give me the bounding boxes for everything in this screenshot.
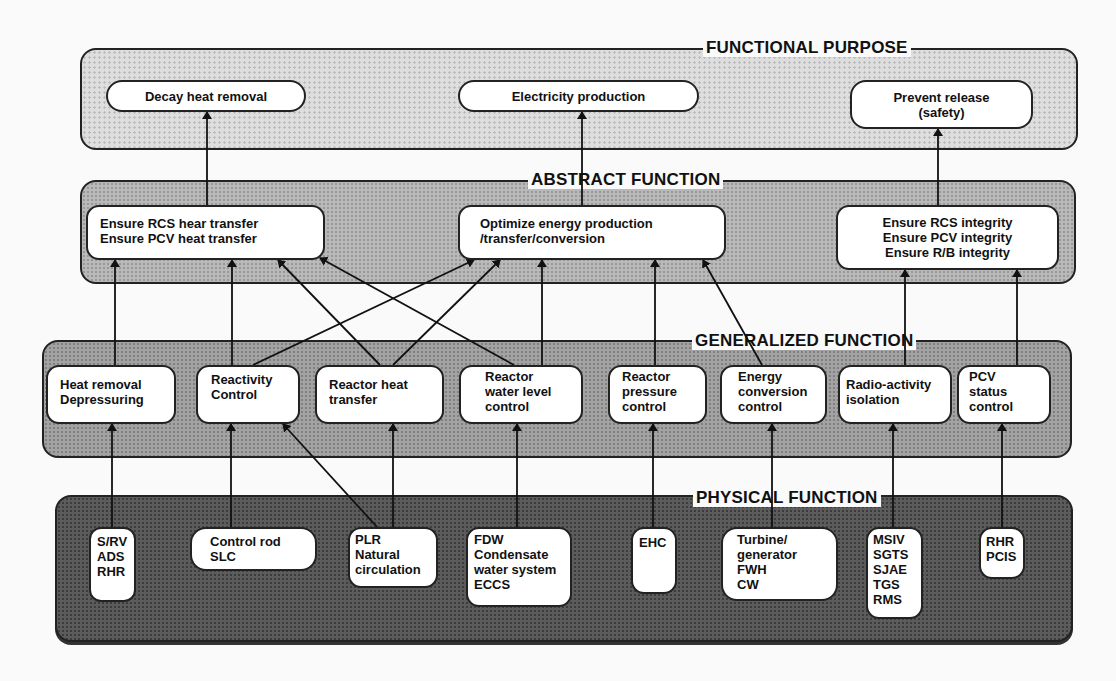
node-ensure-integrity: Ensure RCS integrity Ensure PCV integrit… [836, 205, 1059, 270]
node-electricity-production: Electricity production [458, 80, 699, 112]
node-fdw-condensate-eccs: FDW Condensate water system ECCS [466, 527, 572, 607]
node-srv-ads-rhr: S/RV ADS RHR [89, 527, 136, 602]
node-plr-natural-circulation: PLR Natural circulation [348, 527, 438, 588]
node-ehc: EHC [631, 527, 677, 594]
node-reactor-heat-transfer: Reactor heat transfer [315, 365, 444, 424]
node-energy-conversion-control: Energy conversion control [720, 365, 827, 424]
node-control-rod-slc: Control rod SLC [190, 527, 317, 571]
abstract-function-title: ABSTRACT FUNCTION [528, 171, 723, 189]
node-pcv-status-control: PCV status control [957, 365, 1051, 424]
node-prevent-release: Prevent release (safety) [850, 80, 1033, 129]
node-heat-removal-depressuring: Heat removal Depressuring [46, 365, 176, 424]
node-ensure-rcs-pcv-heat-transfer: Ensure RCS hear transfer Ensure PCV heat… [86, 205, 325, 260]
physical-function-title: PHYSICAL FUNCTION [693, 489, 881, 507]
node-turbine-generator: Turbine/ generator FWH CW [721, 527, 838, 601]
node-decay-heat-removal: Decay heat removal [106, 80, 306, 112]
node-reactor-water-level-control: Reactor water level control [459, 365, 583, 424]
node-optimize-energy-production: Optimize energy production /transfer/con… [458, 205, 726, 260]
generalized-function-title: GENERALIZED FUNCTION [692, 332, 916, 350]
node-reactivity-control: Reactivity Control [196, 365, 300, 424]
node-reactor-pressure-control: Reactor pressure control [608, 365, 707, 424]
node-radio-activity-isolation: Radio-activity isolation [838, 365, 952, 424]
node-msiv-sgts-sjae-tgs-rms: MSIV SGTS SJAE TGS RMS [866, 527, 923, 619]
functional-purpose-title: FUNCTIONAL PURPOSE [703, 39, 911, 57]
node-rhr-pcis: RHR PCIS [979, 527, 1025, 579]
